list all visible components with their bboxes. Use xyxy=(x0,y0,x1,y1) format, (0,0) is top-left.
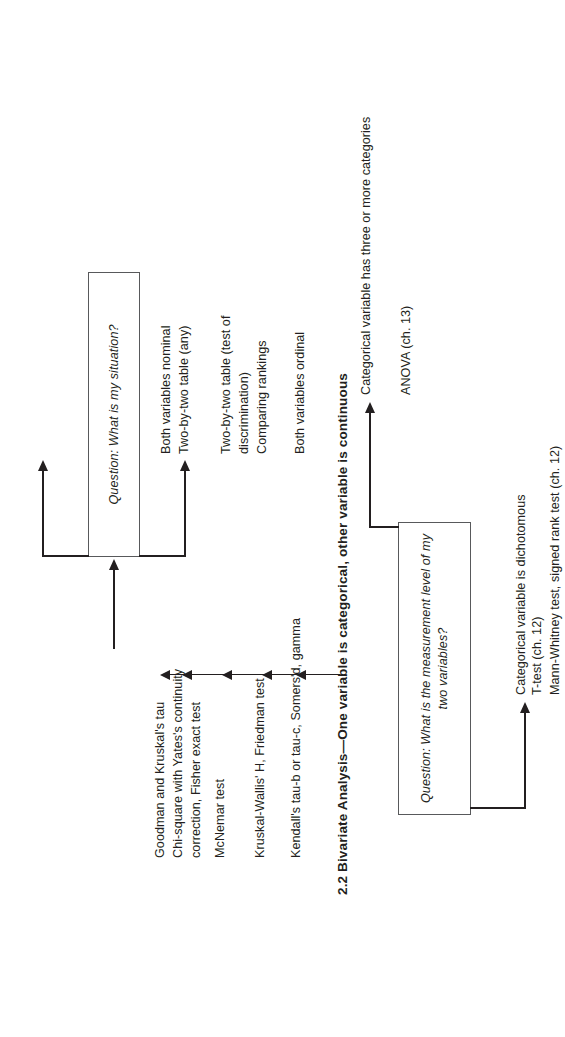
measurement-branch1-hline xyxy=(369,411,371,528)
measurement-branch1-arrowhead xyxy=(365,402,375,413)
result-mcnemar: McNemar test xyxy=(212,498,230,858)
measurement-branch2-arrowhead xyxy=(520,702,530,713)
situation-branch1-vline xyxy=(42,555,89,557)
situation-branch1-arrowhead xyxy=(38,460,48,471)
result-mann-whitney: Mann-Whitney test, signed rank test (ch.… xyxy=(547,275,565,695)
condition-both-variables-ordinal: Both variables ordinal xyxy=(292,194,310,454)
result-goodman-kruskal: Goodman and Kruskal's tau Chi-square wit… xyxy=(152,498,206,858)
condition-two-by-two-discrimination: Two-by-two table (test of discrimination… xyxy=(218,194,272,454)
section-heading: 2.2 Bivariate Analysis—One variable is c… xyxy=(335,373,350,895)
measurement-branch1-vline xyxy=(369,526,399,528)
result-t-test: T-test (ch. 12) xyxy=(529,315,547,695)
question-box-measurement-level-label: Question: What is the measurement level … xyxy=(418,523,452,814)
result-kendall-somers-gamma: Kendall's tau-b or tau-c, Somers'd, gamm… xyxy=(288,458,306,858)
situation-incoming-line xyxy=(113,569,115,649)
condition-both-variables-nominal: Both variables nominal Two-by-two table … xyxy=(158,194,194,454)
situation-incoming-arrowhead xyxy=(109,559,119,570)
measurement-branch2-vline xyxy=(470,807,526,809)
flowchart-canvas: Question: What is my situation? Both var… xyxy=(0,0,565,1037)
rotated-figure-container: Question: What is my situation? Both var… xyxy=(0,0,565,1037)
situation-branch2-arrowhead xyxy=(180,460,190,471)
situation-branch1-hline xyxy=(42,469,44,557)
question-box-situation[interactable]: Question: What is my situation? xyxy=(88,272,140,557)
question-box-situation-label: Question: What is my situation? xyxy=(106,324,123,504)
condition-three-or-more-categories: Categorical variable has three or more c… xyxy=(358,15,376,395)
result-kruskal-wallis-friedman: Kruskal-Wallis' H, Friedman test xyxy=(252,498,270,858)
question-box-measurement-level[interactable]: Question: What is the measurement level … xyxy=(398,522,471,815)
measurement-branch2-hline xyxy=(524,711,526,809)
result-anova: ANOVA (ch. 13) xyxy=(398,15,416,395)
